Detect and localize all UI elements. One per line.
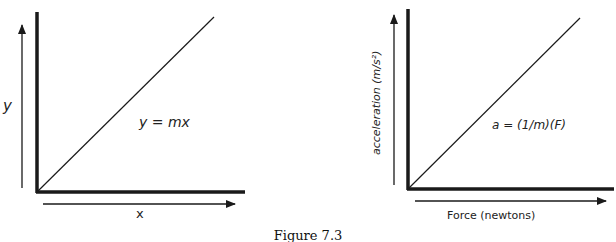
left-y-axis-label: y <box>2 97 13 115</box>
right-linear-line <box>408 18 580 189</box>
right-equation: a = (1/m)(F) <box>492 118 566 132</box>
figure-caption: Figure 7.3 <box>274 228 343 242</box>
right-y-axis-label: acceleration (m/s²) <box>370 51 383 155</box>
left-graph: y x y = mx <box>2 12 245 221</box>
left-equation: y = mx <box>138 114 191 130</box>
left-linear-line <box>37 17 214 192</box>
right-x-axis-label: Force (newtons) <box>447 209 535 222</box>
right-graph: acceleration (m/s²) Force (newtons) a = … <box>370 9 614 222</box>
figure-canvas: y x y = mx acceleration (m/s²) Force (ne… <box>0 0 616 242</box>
left-x-axis-label: x <box>136 206 144 221</box>
